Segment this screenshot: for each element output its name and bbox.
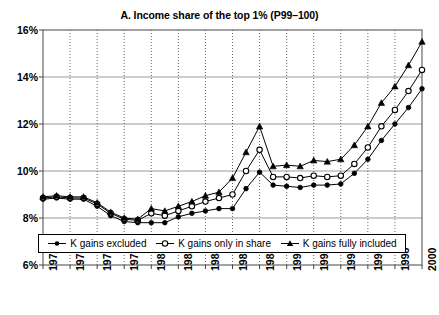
data-point-0	[230, 206, 235, 211]
legend-item-label: K gains excluded	[70, 238, 146, 249]
data-point-1	[392, 107, 397, 112]
data-point-0	[325, 183, 330, 188]
legend-item-label: K gains fully included	[303, 238, 397, 249]
data-point-0	[203, 209, 208, 214]
data-point-1	[406, 88, 411, 93]
data-point-0	[311, 183, 316, 188]
data-point-0	[176, 215, 181, 220]
data-point-1	[325, 174, 330, 179]
data-point-1	[365, 145, 370, 150]
data-point-0	[366, 157, 371, 162]
data-point-1	[379, 124, 384, 129]
data-point-0	[257, 170, 262, 175]
data-point-0	[284, 184, 289, 189]
chart-figure: A. Income share of the top 1% (P99–100) …	[0, 0, 439, 315]
data-point-1	[297, 175, 302, 180]
chart-legend: K gains excludedK gains only in shareK g…	[38, 234, 406, 253]
data-point-0	[338, 182, 343, 187]
data-point-0	[217, 206, 222, 211]
legend-marker-open-circle-icon	[155, 238, 175, 249]
data-point-1	[338, 173, 343, 178]
data-point-1	[311, 173, 316, 178]
data-point-0	[271, 183, 276, 188]
legend-item-2: K gains fully included	[280, 238, 397, 249]
legend-marker-filled-circle-icon	[47, 238, 67, 249]
data-point-0	[149, 220, 154, 225]
data-point-0	[393, 122, 398, 127]
y-axis-tick-label: 10%	[0, 166, 38, 177]
data-point-1	[243, 168, 248, 173]
data-point-1	[352, 161, 357, 166]
data-point-0	[352, 171, 357, 176]
legend-item-label: K gains only in share	[178, 238, 271, 249]
data-point-1	[230, 192, 235, 197]
legend-item-1: K gains only in share	[155, 238, 271, 249]
legend-marker-filled-triangle-icon	[280, 238, 300, 249]
data-point-0	[379, 138, 384, 143]
y-axis-tick-label: 8%	[0, 213, 38, 224]
x-axis-tick-label: 2000	[427, 248, 438, 271]
data-point-0	[406, 105, 411, 110]
data-point-1	[203, 199, 208, 204]
y-axis-tick-label: 16%	[0, 25, 38, 36]
data-point-0	[190, 211, 195, 216]
data-point-1	[270, 174, 275, 179]
data-point-1	[257, 147, 262, 152]
data-point-0	[244, 186, 249, 191]
data-point-1	[419, 67, 424, 72]
y-axis-tick-label: 12%	[0, 119, 38, 130]
y-axis-tick-label: 6%	[0, 260, 38, 271]
data-point-0	[420, 86, 425, 91]
data-point-0	[163, 220, 168, 225]
y-axis-tick-label: 14%	[0, 72, 38, 83]
data-point-1	[216, 195, 221, 200]
legend-item-0: K gains excluded	[47, 238, 146, 249]
data-point-0	[298, 185, 303, 190]
data-point-1	[284, 174, 289, 179]
